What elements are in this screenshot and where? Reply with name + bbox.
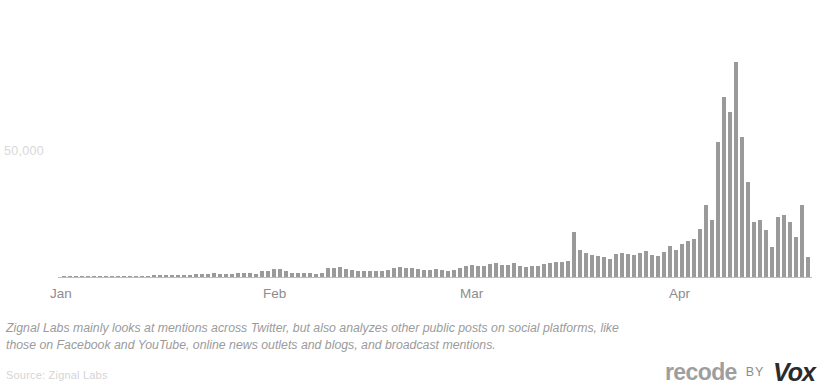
bar <box>686 241 690 278</box>
bar <box>674 250 678 277</box>
bar <box>506 265 510 277</box>
bar <box>782 215 786 278</box>
bar <box>680 244 684 277</box>
bar <box>800 205 804 278</box>
bar <box>734 62 738 277</box>
bar <box>344 269 348 278</box>
bar <box>548 263 552 277</box>
bar <box>650 255 654 278</box>
bar <box>278 269 282 278</box>
bar <box>476 266 480 277</box>
bar <box>668 246 672 278</box>
bar <box>758 220 762 278</box>
bar <box>728 112 732 277</box>
bar-series <box>62 52 812 277</box>
bar-chart-plot: 50,000 JanFebMarApr <box>0 0 827 300</box>
bar <box>530 266 534 277</box>
x-axis-tick-mar: Mar <box>460 286 483 301</box>
bar <box>710 220 714 278</box>
bar <box>632 255 636 278</box>
bar <box>488 264 492 277</box>
bar <box>464 266 468 277</box>
bar <box>518 266 522 278</box>
bar <box>596 256 600 277</box>
bar <box>788 222 792 277</box>
bar <box>338 267 342 277</box>
bar <box>638 253 642 277</box>
bar <box>386 270 390 278</box>
bar <box>392 268 396 277</box>
bar <box>350 270 354 277</box>
bar <box>644 251 648 278</box>
bar <box>752 222 756 277</box>
bar <box>698 229 702 277</box>
x-axis-tick-jan: Jan <box>50 286 72 301</box>
bar <box>770 247 774 277</box>
bar <box>602 257 606 277</box>
bar <box>578 250 582 277</box>
recode-by-vox-logo: recode BY Vox <box>665 360 815 385</box>
chart-footnote-line-1: Zignal Labs mainly looks at mentions acr… <box>6 320 818 337</box>
bar <box>572 232 576 277</box>
bar <box>482 266 486 278</box>
bar <box>458 268 462 278</box>
bar <box>566 261 570 278</box>
vox-wordmark: Vox <box>773 360 815 385</box>
bar <box>536 266 540 278</box>
bar <box>806 257 810 277</box>
bar <box>764 230 768 278</box>
chart-source-label: Source: Zignal Labs <box>6 369 108 381</box>
bar <box>590 255 594 278</box>
bar <box>614 254 618 277</box>
bar <box>722 97 726 277</box>
bar <box>398 267 402 278</box>
bar <box>626 254 630 278</box>
bar <box>656 256 660 278</box>
chart-footnote: Zignal Labs mainly looks at mentions acr… <box>6 320 818 353</box>
bar <box>560 262 564 278</box>
bar <box>410 268 414 277</box>
y-axis-tick-label-50000: 50,000 <box>4 144 44 158</box>
bar <box>692 239 696 277</box>
logo-connector-by: BY <box>746 366 764 379</box>
bar <box>524 267 528 278</box>
bar <box>512 263 516 277</box>
bar <box>422 270 426 278</box>
bar <box>494 263 498 277</box>
bar <box>416 269 420 277</box>
x-axis-tick-labels: JanFebMarApr <box>0 286 827 308</box>
recode-wordmark: recode <box>665 361 737 384</box>
bar <box>452 270 456 277</box>
bar <box>326 268 330 277</box>
bar <box>500 265 504 278</box>
bar <box>584 253 588 277</box>
x-axis-tick-feb: Feb <box>263 286 286 301</box>
bar <box>716 142 720 277</box>
bar <box>434 269 438 278</box>
bar <box>404 268 408 278</box>
x-axis-baseline <box>58 277 812 278</box>
bar <box>428 270 432 278</box>
bar <box>470 265 474 278</box>
bar <box>704 205 708 277</box>
bar <box>746 182 750 277</box>
bar <box>662 252 666 278</box>
bar <box>608 259 612 278</box>
bar <box>272 269 276 277</box>
bar <box>332 268 336 278</box>
x-axis-tick-apr: Apr <box>669 286 690 301</box>
chart-footnote-line-2: those on Facebook and YouTube, online ne… <box>6 337 818 354</box>
bar <box>554 262 558 277</box>
bar <box>776 217 780 277</box>
bar <box>620 253 624 277</box>
bar <box>542 264 546 277</box>
bar <box>794 237 798 277</box>
bar <box>440 270 444 277</box>
chart-figure: 50,000 JanFebMarApr Zignal Labs mainly l… <box>0 0 827 389</box>
bar <box>740 137 744 277</box>
